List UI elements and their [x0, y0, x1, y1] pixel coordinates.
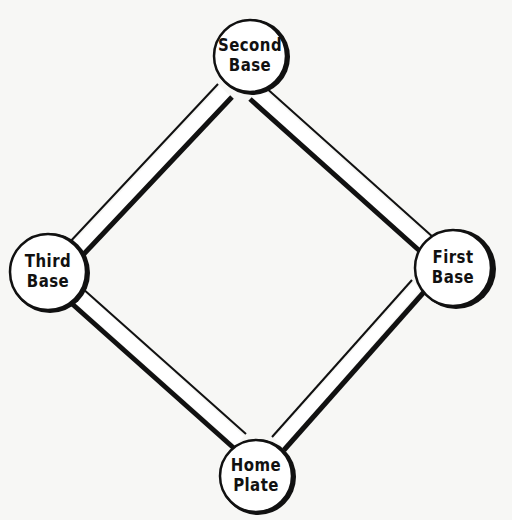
label-second-base-line2: Base: [217, 55, 284, 75]
label-first-base: First Base: [420, 247, 487, 287]
baseline-second-to-first: [250, 86, 434, 253]
label-home-plate-line2: Plate: [223, 475, 290, 495]
label-first-base-line2: Base: [420, 267, 487, 287]
label-third-base: Third Base: [15, 251, 82, 291]
baseline-first-to-home: [272, 280, 424, 450]
label-first-base-line1: First: [420, 247, 487, 267]
label-home-plate: Home Plate: [223, 455, 290, 495]
label-home-plate-line1: Home: [223, 455, 290, 475]
baseline-home-to-third: [70, 288, 246, 450]
label-third-base-line1: Third: [15, 251, 82, 271]
baseline-third-to-second: [68, 84, 232, 256]
label-second-base: Second Base: [217, 35, 284, 75]
label-second-base-line1: Second: [217, 35, 284, 55]
label-third-base-line2: Base: [15, 271, 82, 291]
